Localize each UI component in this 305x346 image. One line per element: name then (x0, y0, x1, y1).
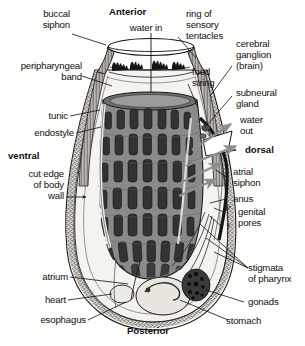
leader-gonads (206, 290, 244, 302)
label-stigmata-of-pharynx: stigmata of pharynx (248, 262, 305, 284)
label-cut-edge-of-body-wall: cut edge of body wall (2, 168, 64, 202)
label-heart: heart (2, 294, 66, 305)
leader-stigmata-2 (206, 238, 248, 268)
label-buccal-siphon: buccal siphon (2, 8, 70, 30)
label-posterior: Posterior (110, 325, 186, 336)
label-ring-of-sensory-tentacles: ring of sensory tentacles (186, 8, 244, 42)
label-peripharyngeal-band: peripharyngeal band (2, 60, 82, 82)
label-ventral: ventral (8, 150, 68, 161)
leader-buccal-siphon (72, 34, 106, 45)
label-genital-pores: genital pores (238, 206, 294, 228)
leader-atrial-siphon (216, 170, 228, 178)
label-stomach: stomach (226, 315, 282, 326)
leader-stomach (180, 300, 228, 320)
leader-stigmata-1 (214, 252, 248, 268)
label-water-out: water out (240, 114, 290, 136)
leader-atrium (70, 277, 128, 284)
label-food-string: food string (192, 66, 232, 88)
leader-peripharyngeal-band (82, 76, 112, 86)
label-anus: anus (233, 193, 273, 204)
leader-esophagus (88, 302, 126, 320)
label-cerebral-ganglion: cerebral ganglion (brain) (236, 38, 304, 72)
label-tunic: tunic (8, 110, 68, 121)
male-symbol-icon: ♂ (224, 203, 232, 214)
figure-canvas: Anterior water in buccal siphon periphar… (0, 0, 305, 346)
label-gonads: gonads (248, 296, 300, 307)
leader-genital-female (210, 216, 222, 227)
label-subneural-gland: subneural gland (236, 87, 302, 109)
female-symbol-icon: ♀ (224, 220, 232, 231)
label-esophagus: esophagus (2, 314, 86, 325)
leader-tunic (70, 110, 100, 116)
label-atrial-siphon: atrial siphon (233, 166, 285, 188)
label-endostyle: endostyle (2, 127, 74, 138)
label-dorsal: dorsal (245, 144, 301, 155)
label-water-in: water in (113, 22, 179, 33)
leader-genital-male (214, 208, 224, 212)
leader-endostyle (76, 127, 101, 133)
label-atrium: atrium (2, 271, 68, 282)
label-anterior: Anterior (109, 6, 181, 17)
leader-subneural-gland (208, 96, 232, 124)
leader-heart (68, 294, 112, 300)
